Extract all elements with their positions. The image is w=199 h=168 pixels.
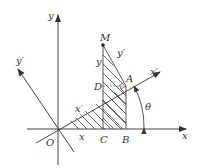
label-theta: θ (145, 101, 151, 112)
label-segment-y-prime: y′ (116, 47, 126, 58)
label-origin: O (46, 137, 54, 148)
label-segment-x: x (79, 131, 85, 142)
point-M (101, 43, 105, 47)
label-segment-y: y (95, 56, 102, 67)
label-point-D: D (93, 81, 102, 92)
label-point-M: M (99, 32, 111, 43)
rotation-diagram: y x y′ x′ O M A D C B θ x y x′ y′ (0, 0, 199, 168)
label-point-A: A (125, 73, 133, 84)
diagram-canvas: y x y′ x′ O M A D C B θ x y x′ y′ (0, 0, 199, 168)
label-segment-x-prime: x′ (75, 103, 84, 114)
label-x-prime-axis: x′ (150, 66, 159, 77)
label-y-axis: y (47, 10, 54, 21)
label-point-C: C (100, 134, 108, 145)
label-y-prime-axis: y′ (15, 55, 25, 66)
label-point-B: B (121, 134, 129, 145)
theta-arc (134, 86, 144, 128)
label-x-axis: x (182, 130, 188, 141)
